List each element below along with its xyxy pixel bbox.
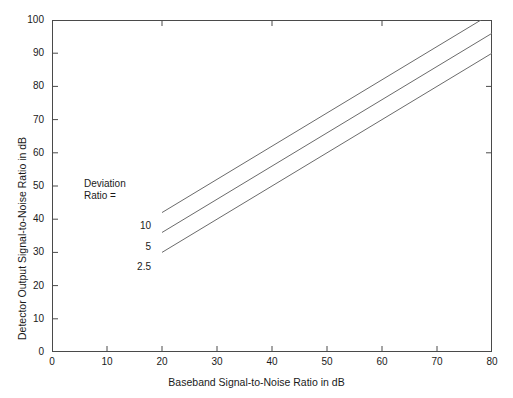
series-line-dr10 [162,20,481,213]
chart-figure: 100 90 80 70 60 50 40 30 20 10 0 0 10 20… [0,0,513,398]
series-line-dr5 [162,33,492,232]
curve-label-dr5: 5 [125,241,151,252]
ytick-label-70: 70 [4,115,44,125]
xtick-label-0: 0 [32,357,72,367]
series-line-dr25 [162,53,492,252]
x-tick-marks [52,346,492,352]
xtick-label-70: 70 [417,357,457,367]
curve-label-dr25: 2.5 [125,261,151,272]
ytick-label-100: 100 [4,15,44,25]
y-axis-title: Detector Output Signal-to-Noise Ratio in… [16,137,28,340]
x-axis-title: Baseband Signal-to-Noise Ratio in dB [0,376,513,388]
xtick-label-80: 80 [472,357,512,367]
xtick-label-30: 30 [197,357,237,367]
annotation-ratio-equals: Ratio = [84,190,116,202]
y-tick-marks-right [486,86,492,152]
ytick-label-0: 0 [4,347,44,357]
xtick-label-50: 50 [307,357,347,367]
ytick-label-80: 80 [4,81,44,91]
xtick-label-10: 10 [87,357,127,367]
ytick-label-90: 90 [4,48,44,58]
xtick-label-60: 60 [362,357,402,367]
xtick-label-20: 20 [142,357,182,367]
x-tick-marks-top [162,20,382,26]
y-tick-marks [52,20,58,352]
xtick-label-40: 40 [252,357,292,367]
curve-label-dr10: 10 [125,220,151,231]
annotation-deviation: Deviation [84,178,126,190]
